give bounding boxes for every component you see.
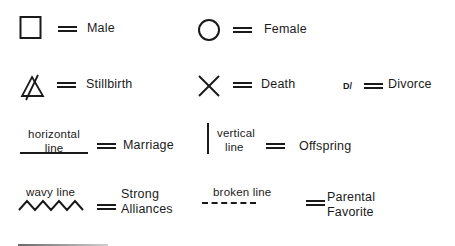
- label-divorce: Divorce: [388, 77, 432, 91]
- horizontal-line-marriage-icon: [20, 152, 88, 154]
- label-marriage: Marriage: [123, 138, 174, 152]
- struck-triangle-stillbirth-icon: [20, 73, 46, 101]
- broken-line-favorite-icon: [202, 202, 256, 204]
- label-stillbirth: Stillbirth: [86, 77, 132, 91]
- caption-horizontal-line: horizontal line: [20, 127, 88, 155]
- equals-icon: [364, 83, 383, 89]
- label-female: Female: [264, 22, 307, 36]
- equals-icon: [57, 82, 76, 88]
- caption-vertical-line: vertical line: [217, 126, 255, 154]
- label-death: Death: [261, 77, 295, 91]
- x-cross-death-icon: [196, 73, 222, 99]
- equals-icon: [306, 200, 325, 206]
- caption-wavy-line: wavy line: [26, 186, 75, 198]
- label-offspring: Offspring: [299, 139, 351, 153]
- caption-broken-line: broken line: [213, 186, 271, 198]
- square-male-icon: [19, 15, 43, 41]
- wavy-line-alliance-icon: [18, 198, 84, 212]
- equals-icon: [233, 27, 252, 33]
- label-strong-alliances: Strong Alliances: [121, 187, 173, 217]
- circle-female-icon: [196, 17, 222, 43]
- divorce-symbol-icon: D/: [343, 81, 352, 91]
- equals-icon: [233, 82, 252, 88]
- equals-icon: [97, 204, 116, 210]
- vertical-line-offspring-icon: [207, 123, 209, 154]
- equals-icon: [97, 143, 116, 149]
- label-parental-favorite: Parental Favorite: [327, 190, 375, 220]
- equals-icon: [58, 26, 77, 32]
- equals-icon: [266, 143, 285, 149]
- label-male: Male: [87, 21, 115, 35]
